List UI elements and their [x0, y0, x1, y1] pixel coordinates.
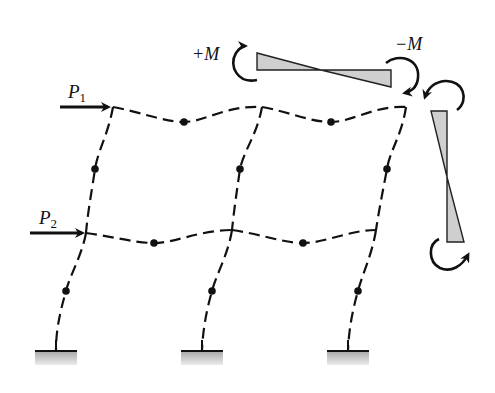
top-beam-left-span: [113, 107, 262, 122]
inflection-point: [327, 118, 335, 126]
column-moment-diagram: [431, 111, 464, 242]
inflection-point: [354, 287, 362, 295]
lower-column-right: [348, 230, 376, 350]
column-bottom-moment-arrow-icon: [431, 239, 468, 270]
inflection-point: [180, 118, 188, 126]
inflection-point: [236, 165, 244, 173]
upper-column-left: [86, 107, 113, 233]
inflection-point: [91, 165, 99, 173]
frame-diagram: [0, 0, 495, 393]
lower-beam-left-span: [86, 230, 232, 243]
upper-column-right: [376, 107, 406, 230]
inflection-point: [62, 287, 70, 295]
p1-symbol: P: [68, 81, 80, 102]
p2-symbol: P: [39, 207, 51, 228]
inflection-point: [208, 287, 216, 295]
lower-column-left: [56, 233, 86, 350]
p2-subscript: 2: [51, 216, 58, 231]
inflection-points: [62, 118, 391, 295]
positive-moment-label: +M: [192, 45, 219, 63]
support-left: [35, 340, 77, 365]
deflected-shape: [56, 107, 406, 350]
beam-moment-diagram: [257, 53, 391, 87]
inflection-point: [383, 165, 391, 173]
inflection-point: [299, 239, 307, 247]
p2-label: P2: [39, 208, 57, 230]
negative-moment-label: −M: [395, 35, 422, 53]
moment-arrows: [233, 46, 468, 270]
supports: [35, 340, 369, 365]
column-top-moment-arrow-icon: [425, 81, 464, 110]
positive-moment-arrow-icon: [233, 46, 257, 81]
lower-column-middle: [202, 230, 232, 350]
support-right: [327, 340, 369, 365]
inflection-point: [150, 239, 158, 247]
support-middle: [181, 340, 223, 365]
p1-label: P1: [68, 82, 86, 104]
p1-subscript: 1: [80, 90, 87, 105]
